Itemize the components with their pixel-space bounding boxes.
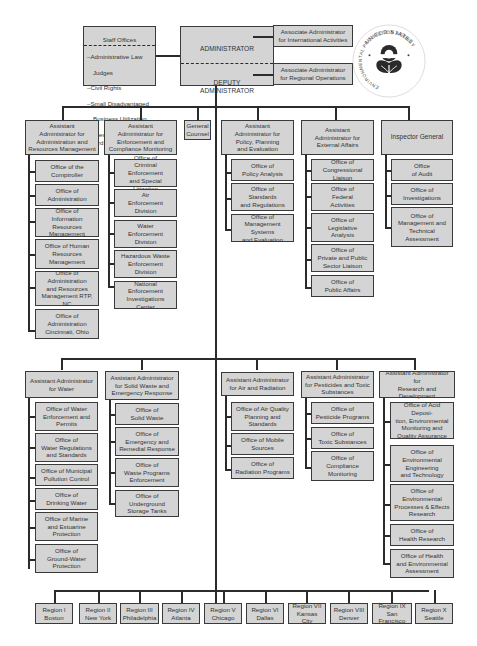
connector — [197, 106, 199, 120]
office-box: Office of Solid Waste — [115, 403, 179, 425]
connector — [434, 590, 436, 604]
assoc-admin-international-box: Associate Administrator for Internationa… — [273, 25, 353, 47]
connector — [61, 358, 63, 370]
office-box: Office of Audit — [391, 159, 453, 181]
connector — [225, 396, 227, 469]
connector — [28, 398, 30, 569]
aa-enforcement-compliance-box: Assistant Administrator for Enforcement … — [104, 120, 177, 155]
region-box: Region X Seattle — [415, 603, 453, 624]
office-box: Office of Health and Environmental Asses… — [390, 549, 454, 578]
office-box: Office of the Comptroller — [35, 160, 99, 182]
connector — [62, 106, 64, 120]
office-box: Office of Radiation Programs — [231, 457, 294, 479]
connector — [348, 590, 350, 604]
general-counsel-box: General Counsel — [184, 120, 211, 140]
connector — [336, 358, 338, 370]
row2-bus — [61, 358, 415, 360]
office-box: Office of Federal Activities — [311, 183, 374, 211]
connector — [225, 155, 227, 229]
administrator-box: ADMINISTRATOR DEPUTY ADMINISTRATOR — [180, 26, 274, 86]
connector — [257, 106, 259, 120]
connector — [408, 106, 410, 120]
office-box: Hazardous Waste Enforcement Division — [114, 250, 177, 278]
aa-pesticides-toxic-box: Assistant Administrator for Pesticides a… — [301, 371, 374, 398]
office-box: Office of Congressional Liaison — [311, 159, 374, 181]
office-box: Office of Marine and Estuarine Protectio… — [35, 512, 98, 541]
office-box: Office of Acid Deposi- tion, Environment… — [390, 402, 454, 439]
region-box: Region II New York — [79, 603, 117, 624]
connector — [335, 106, 337, 120]
office-box: National Enforcement Investigations Cent… — [114, 281, 177, 309]
office-box: Office of Underground Storage Tanks — [115, 490, 179, 517]
staff-offices-title: Staff Offices — [84, 35, 155, 46]
aa-administration-resources-box: Assistant Administrator for Administrati… — [25, 120, 99, 155]
aa-policy-planning-box: Assistant Administrator for Policy, Plan… — [221, 120, 294, 155]
aa-solid-waste-box: Assistant Administrator for Solid Waste … — [105, 371, 179, 400]
office-box: Office of Administration Cincinnati, Ohi… — [35, 309, 99, 339]
office-box: Office of Waste Programs Enforcement — [115, 458, 179, 487]
office-box: Air Enforcement Division — [114, 189, 177, 217]
office-box: Office of Mobile Sources — [231, 433, 294, 455]
region-box: Region V Chicago — [204, 603, 242, 624]
staff-office-item: –Administrative Law — [84, 53, 155, 61]
trunk-line — [215, 86, 217, 607]
office-box: Office of Health Research — [390, 524, 454, 546]
office-box: Office of Standards and Regulations — [231, 183, 294, 211]
office-box: Office of Investigations — [391, 183, 453, 205]
connector — [54, 590, 56, 604]
aa-external-affairs-box: Assistant Administrator for External Aff… — [301, 120, 374, 155]
staff-office-item: –Civil Rights — [84, 84, 155, 92]
office-box: Office of Compliance Monitoring — [311, 451, 374, 481]
office-box: Office of Air Quality Planning and Stand… — [231, 402, 294, 431]
office-box: Office of Criminal Enforcement and Speci… — [114, 159, 177, 187]
connector — [305, 398, 307, 467]
connector — [156, 55, 180, 57]
office-box: Office of Water Regulations and Standard… — [35, 433, 98, 462]
office-box: Office of Ground-Water Protection — [35, 544, 98, 573]
aa-water-box: Assistant Administrator for Water — [25, 371, 98, 398]
administrator-label: ADMINISTRATOR — [181, 35, 273, 64]
office-box: Office of Water Enforcement and Permits — [35, 402, 98, 431]
region-box: Region IX San Francisco — [372, 603, 412, 624]
office-box: Office of Emergency and Remedial Respons… — [115, 427, 179, 456]
office-box: Office of Private and Public Sector Liai… — [311, 244, 374, 272]
office-box: Office of Administration — [35, 184, 99, 206]
aa-research-development-box: Assistant Administrator for Research and… — [379, 371, 455, 398]
connector — [141, 358, 143, 370]
connector — [140, 106, 142, 120]
connector — [305, 155, 307, 287]
connector — [256, 358, 258, 370]
region-box: Region IV Atlanta — [162, 603, 200, 624]
office-box: Office of Drinking Water — [35, 488, 98, 510]
office-box: Office of Pesticide Programs — [311, 402, 374, 424]
inspector-general-box: Inspector General — [381, 120, 453, 155]
office-box: Office of Legislative Analysis — [311, 213, 374, 242]
connector — [181, 590, 183, 604]
connector — [253, 36, 273, 38]
connector — [383, 398, 385, 563]
connector — [139, 590, 141, 604]
office-box: Office of Toxic Substances — [311, 427, 374, 449]
epa-seal-icon: UNITED STATES ENVIRONMENTAL PROTECTION A… — [350, 22, 428, 100]
connector — [223, 590, 225, 604]
assoc-admin-regional-box: Associate Administrator for Regional Ope… — [273, 63, 353, 85]
connector — [28, 155, 30, 330]
row1-bus — [62, 106, 408, 108]
connector — [98, 590, 100, 604]
region-box: Region VII Kansas City — [288, 603, 326, 624]
office-box: Office of Environmental Engineering and … — [390, 445, 454, 482]
deputy-administrator-label: DEPUTY ADMINISTRATOR — [181, 72, 273, 101]
office-box: Office of Policy Analysis — [231, 159, 294, 181]
aa-air-radiation-box: Assistant Administrator for Air and Radi… — [221, 372, 294, 396]
region-box: Region III Philadelphia — [120, 603, 159, 624]
office-box: Office of Environmental Processes & Effe… — [390, 484, 454, 521]
connector — [108, 155, 110, 286]
connector — [253, 74, 273, 76]
office-box: Office of Administration and Resources M… — [35, 271, 99, 306]
connector — [385, 155, 387, 227]
staff-offices-box: Staff Offices –Administrative Law Judges… — [83, 26, 156, 86]
office-box: Office of Human Resources Management — [35, 239, 99, 269]
office-box: Office of Management and Technical Asses… — [391, 207, 453, 247]
office-box: Water Enforcement Division — [114, 220, 177, 248]
connector — [265, 590, 267, 604]
